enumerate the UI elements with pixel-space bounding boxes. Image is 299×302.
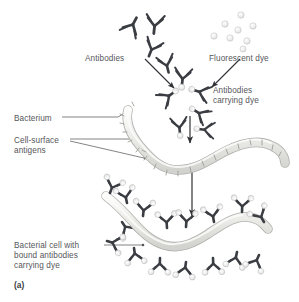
bound-antibody-icon (222, 250, 248, 271)
label-fluorescent-dye: Fluorescent dye (209, 54, 269, 64)
bacterium-lower (99, 173, 273, 280)
dye-particle-icon (238, 12, 244, 18)
bound-antibody-icon (123, 246, 148, 266)
dye-particle-icon (244, 38, 250, 44)
dye-particle-icon (240, 46, 246, 52)
bound-antibody-icon (148, 258, 171, 276)
fluorescent-dye-group (211, 12, 256, 52)
bound-antibody-icon (175, 209, 199, 228)
bound-cell-leader-dot (142, 244, 145, 247)
figure-panel: Antibodies Fluorescent dye Antibodies ca… (0, 0, 299, 302)
antibody-icon (141, 37, 164, 60)
bound-antibody-icon (132, 198, 156, 217)
antibody-with-dye-icon (193, 121, 215, 139)
label-antibodies: Antibodies (85, 54, 124, 64)
bound-antibody-icon (231, 195, 254, 213)
antibody-with-dye-icon (185, 100, 211, 125)
dye-particle-icon (235, 27, 241, 33)
free-antibodies-group (120, 14, 177, 75)
antibody-icon (156, 54, 177, 75)
label-antibodies-carrying-dye: Antibodies carrying dye (213, 86, 259, 106)
antibody-with-dye-icon (186, 80, 211, 102)
antibody-icon (120, 14, 145, 39)
dye-particle-icon (227, 35, 233, 41)
bound-antibody-icon (104, 230, 127, 256)
label-bacterial-cell-bound: Bacterial cell with bound antibodies car… (14, 241, 79, 272)
antibody-icon (145, 14, 165, 34)
antibody-with-dye-icon (170, 117, 188, 139)
dye-particle-icon (250, 23, 256, 29)
label-bacterium: Bacterium (14, 114, 52, 124)
label-cell-surface-antigens: Cell-surface antigens (14, 136, 59, 156)
dye-particle-icon (222, 21, 228, 27)
dye-particle-icon (211, 33, 217, 39)
bound-antibody-icon (202, 258, 225, 276)
bound-antibody-icon (172, 260, 197, 280)
panel-identifier: (a) (14, 280, 24, 290)
bound-antibody-icon (242, 250, 270, 275)
bacterium-leader (62, 112, 126, 117)
bound-antibody-icon (155, 210, 179, 229)
